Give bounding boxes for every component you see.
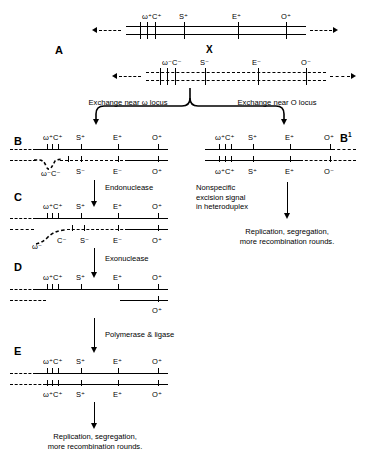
strand-b-bot-dashtail bbox=[10, 160, 36, 161]
tick-a-bot-5 bbox=[258, 68, 259, 85]
marker-c-bot-s: S⁻ bbox=[80, 237, 89, 245]
strand-d-bot-solid bbox=[120, 300, 168, 301]
marker-b-top-s: S⁺ bbox=[76, 134, 85, 142]
strand-d-top bbox=[36, 289, 168, 290]
marker-e-top-o: O⁺ bbox=[152, 358, 162, 366]
marker-d-top-o: O⁺ bbox=[152, 274, 162, 282]
tick-d-top-1 bbox=[47, 284, 48, 290]
strand-c-bot-solid bbox=[128, 229, 168, 230]
marker-a-top-omega-c: ω⁺C⁺ bbox=[142, 13, 162, 21]
strand-a-top-lower bbox=[126, 34, 306, 35]
marker-c-top-s: S⁺ bbox=[76, 203, 85, 211]
tick-a-bot-2 bbox=[167, 68, 168, 85]
marker-e-top-omega-c: ω⁺C⁺ bbox=[43, 358, 63, 366]
arrowhead-a-bot-left bbox=[112, 73, 117, 79]
outcome-right: Replication, segregation, more recombina… bbox=[213, 227, 361, 246]
annotation-nonspecific-excision: Nonspecific excision signal in heterodup… bbox=[196, 183, 274, 212]
tick-b1-bot-2 bbox=[225, 156, 226, 162]
arrow-line-polymerase bbox=[94, 318, 95, 348]
arrowhead-final bbox=[91, 423, 97, 429]
marker-c-bot-e: E⁻ bbox=[113, 237, 122, 245]
strand-d-bot-dashtail bbox=[10, 300, 46, 301]
tick-c-top-4 bbox=[81, 213, 82, 219]
tick-b1-top-4 bbox=[253, 144, 254, 150]
tick-b-top-3 bbox=[58, 144, 59, 150]
marker-d-top-s: S⁺ bbox=[76, 274, 85, 282]
marker-a-bot-omega-c: ω⁻C⁻ bbox=[162, 59, 182, 67]
tick-b1-top-3 bbox=[231, 144, 232, 150]
tick-e-top-1 bbox=[47, 368, 48, 374]
marker-b1-top-s: S⁺ bbox=[248, 134, 257, 142]
arrowhead-a-top-left bbox=[92, 27, 97, 33]
tick-e-bot-3 bbox=[58, 380, 59, 386]
arrow-line-final bbox=[94, 402, 95, 424]
marker-d-top-e: E⁺ bbox=[113, 274, 122, 282]
tick-d-top-4 bbox=[81, 284, 82, 290]
tick-e-bot-6 bbox=[158, 380, 159, 386]
arrowhead-polymerase bbox=[91, 347, 97, 353]
arrowhead-endonuclease bbox=[91, 201, 97, 207]
strand-e-bot-dashtail bbox=[10, 384, 46, 385]
tick-e-bot-5 bbox=[118, 380, 119, 386]
arrowhead-exonuclease bbox=[91, 272, 97, 278]
tick-d-top-2 bbox=[52, 284, 53, 290]
strand-e-top-dashtail bbox=[10, 373, 36, 374]
strand-a-bot-lower bbox=[146, 80, 326, 81]
tick-a-top-1 bbox=[140, 22, 141, 39]
outcome-bottom-line-1: Replication, segregation, bbox=[53, 432, 137, 441]
nonspecific-line-3: in heteroduplex bbox=[196, 202, 248, 211]
strand-c-bot-dashtail bbox=[10, 229, 34, 230]
tick-e-top-4 bbox=[81, 368, 82, 374]
marker-d-bot-o: O⁺ bbox=[152, 307, 162, 315]
tick-b1-bot-1 bbox=[219, 156, 220, 162]
marker-b1-bot-omega-c: ω⁺C⁺ bbox=[215, 168, 235, 176]
tick-a-top-2 bbox=[147, 22, 148, 39]
tick-b-bot-1 bbox=[68, 156, 69, 162]
arrowhead-fork-left bbox=[93, 119, 99, 125]
panel-letter-b1-text: B bbox=[340, 132, 348, 144]
marker-c-top-e: E⁺ bbox=[113, 203, 122, 211]
panel-letter-b: B bbox=[14, 136, 22, 147]
marker-a-bot-e: E⁻ bbox=[252, 59, 261, 67]
tick-a-bot-1 bbox=[160, 68, 161, 85]
panel-letter-d: D bbox=[14, 262, 22, 273]
tick-b1-top-6 bbox=[330, 144, 331, 150]
arrowhead-a-top-right bbox=[333, 27, 338, 33]
annotation-endonuclease: Endonuclease bbox=[105, 183, 153, 193]
marker-c-bot-omega: ω⁻ bbox=[32, 243, 42, 251]
tick-c-bot-1 bbox=[72, 225, 73, 231]
tick-a-top-5 bbox=[238, 22, 239, 39]
strand-a-top-upper bbox=[126, 26, 306, 27]
marker-c-bot-o: O⁺ bbox=[152, 237, 162, 245]
tick-a-top-4 bbox=[184, 22, 185, 39]
marker-e-bot-s: S⁺ bbox=[76, 391, 85, 399]
marker-b-bot-omega-c: ω⁻C⁻ bbox=[41, 170, 61, 178]
outcome-right-line-1: Replication, segregation, bbox=[245, 227, 329, 236]
tick-e-bot-4 bbox=[81, 380, 82, 386]
cross-label-x: X bbox=[206, 45, 213, 55]
tick-b-top-4 bbox=[81, 144, 82, 150]
tick-d-bot-1 bbox=[158, 296, 159, 302]
tick-b-bot-2 bbox=[81, 156, 82, 162]
panel-letter-b1-sup: 1 bbox=[348, 131, 352, 138]
tick-b1-top-1 bbox=[219, 144, 220, 150]
tick-d-top-3 bbox=[58, 284, 59, 290]
strand-b-top-dashtail bbox=[10, 149, 36, 150]
strand-a-bot-upper bbox=[146, 72, 326, 73]
fork-connector bbox=[80, 88, 300, 124]
tick-d-top-5 bbox=[118, 284, 119, 290]
tick-c-top-5 bbox=[118, 213, 119, 219]
marker-c-top-o: O⁺ bbox=[152, 203, 162, 211]
tick-c-bot-2 bbox=[84, 225, 85, 231]
tick-b1-bot-5 bbox=[290, 156, 291, 162]
tick-a-top-6 bbox=[286, 22, 287, 39]
arrowhead-b1-down bbox=[284, 213, 290, 219]
marker-e-bot-o: O⁺ bbox=[152, 391, 162, 399]
strand-e-bot bbox=[46, 384, 168, 385]
marker-d-top-omega-c: ω⁺C⁺ bbox=[43, 274, 63, 282]
marker-b-bot-o: O⁺ bbox=[152, 168, 162, 176]
outcome-bottom: Replication, segregation, more recombina… bbox=[20, 432, 170, 451]
tick-b-bot-3 bbox=[118, 156, 119, 162]
strand-a-top-left-tail bbox=[99, 30, 121, 31]
marker-b1-bot-o: O⁻ bbox=[324, 168, 334, 176]
